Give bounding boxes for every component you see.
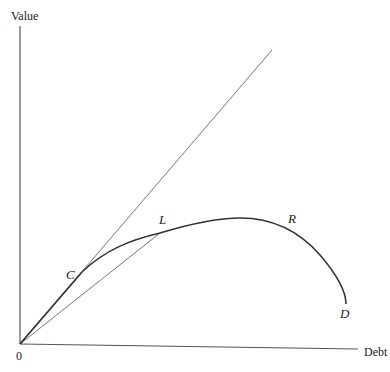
ray-to-l <box>20 233 160 344</box>
debt-value-diagram: Value Debt 0 C L R D <box>0 0 390 372</box>
point-r-label: R <box>287 211 296 226</box>
x-axis-label: Debt <box>364 345 388 359</box>
origin-label: 0 <box>16 349 22 363</box>
segment-0-c <box>20 272 82 344</box>
point-c-label: C <box>66 267 75 282</box>
point-l-label: L <box>158 212 166 227</box>
y-axis-label: Value <box>11 9 38 23</box>
point-d-label: D <box>339 306 350 321</box>
x-axis <box>20 344 358 349</box>
value-curve <box>82 218 346 304</box>
